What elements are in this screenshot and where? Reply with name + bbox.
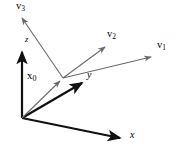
- vector-diagram-figure: v3 v2 v1 x0 z y x: [0, 0, 177, 149]
- v2-label-subscript: 2: [112, 32, 116, 41]
- v3-label-subscript: 3: [21, 4, 25, 13]
- x-axis-label: x: [130, 130, 134, 140]
- y-axis-label: y: [87, 70, 91, 80]
- x0-point-label: x0: [27, 70, 37, 83]
- v1-label-subscript: 1: [162, 43, 166, 52]
- v2-label: v2: [107, 29, 116, 40]
- v1-label: v1: [157, 40, 166, 51]
- vectors-group: [22, 18, 151, 118]
- z-axis-label: z: [25, 35, 28, 44]
- x0-label-subscript: 0: [33, 74, 37, 83]
- axes-group: [22, 52, 120, 138]
- x-axis-line: [22, 118, 120, 138]
- v1-vector-line: [63, 57, 151, 78]
- v3-label: v3: [16, 1, 25, 12]
